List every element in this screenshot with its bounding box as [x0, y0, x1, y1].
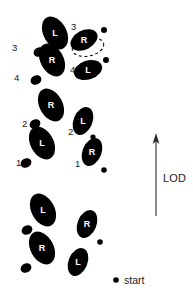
label-right-2: 2 — [68, 126, 73, 137]
heel-shape — [19, 261, 33, 274]
footprint-letter: L — [39, 138, 45, 148]
footprint-right-4: L — [71, 56, 104, 83]
footprint-start-right-r: R — [73, 207, 101, 241]
lod-label: LOD — [163, 172, 186, 184]
stray-dot-upper-right — [101, 27, 107, 33]
footprint-letter: L — [52, 28, 58, 38]
footprint-letter: R — [49, 55, 56, 65]
footprint-left-2: R — [28, 84, 69, 131]
label-left-1: 1 — [16, 157, 21, 168]
label-right-4: 4 — [70, 64, 75, 75]
label-right-1: 1 — [75, 158, 80, 169]
label-right-3: 3 — [71, 21, 76, 32]
label-left-3: 3 — [12, 42, 17, 53]
footprint-letter: L — [85, 65, 91, 75]
stray-dot-right-2 — [90, 134, 95, 139]
start-marker-dot — [113, 277, 119, 283]
footprint-right-1: R — [78, 135, 106, 169]
lod-direction-arrow — [153, 133, 160, 216]
label-left-4: 4 — [14, 72, 19, 83]
footprint-start-left-l: L — [20, 189, 61, 237]
stray-dot-mid-right — [103, 57, 109, 63]
footprint-letter: R — [39, 243, 46, 253]
stray-dot-right-1 — [101, 167, 107, 173]
footprint-trail-figure: L R R L R L — [0, 0, 193, 301]
footprint-letter: R — [84, 219, 91, 229]
footprint-letter: R — [48, 100, 55, 110]
footprint-letter: L — [80, 116, 86, 126]
footprint-letter: L — [40, 205, 46, 215]
label-left-2: 2 — [22, 118, 27, 129]
footprint-left-1: L — [19, 122, 60, 170]
footprint-letter: L — [75, 257, 81, 267]
footprint-letter: R — [89, 147, 96, 157]
heel-shape — [29, 73, 43, 86]
stray-dot-start-col — [97, 239, 103, 245]
footprint-letter: R — [81, 35, 88, 45]
footprint-diagram-svg: L R R L R L — [0, 0, 193, 301]
start-label: start — [124, 274, 145, 286]
footprint-start-right-l: L — [64, 245, 92, 279]
